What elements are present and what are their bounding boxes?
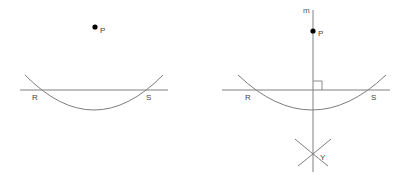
line-m-label: m [303,6,310,15]
construction-arc-from-s [298,139,331,166]
right-point-y-label: Y [320,153,326,162]
right-point-p-label: P [318,29,323,38]
right-compass-arc [238,75,386,110]
right-point-r-label: R [245,93,251,102]
right-point-p-dot [310,28,315,33]
left-point-p-dot [92,24,97,29]
left-compass-arc [25,75,163,110]
diagram-canvas: P R S m P R [0,0,411,187]
left-point-r-label: R [32,93,38,102]
left-point-p-label: P [100,26,105,35]
right-point-s-label: S [371,93,376,102]
right-angle-marker [313,81,322,90]
left-point-s-label: S [146,93,151,102]
geometry-diagram: P R S m P R [0,0,411,187]
right-panel-group: m P R S Y [222,6,390,172]
left-panel-group: P R S [20,24,168,110]
